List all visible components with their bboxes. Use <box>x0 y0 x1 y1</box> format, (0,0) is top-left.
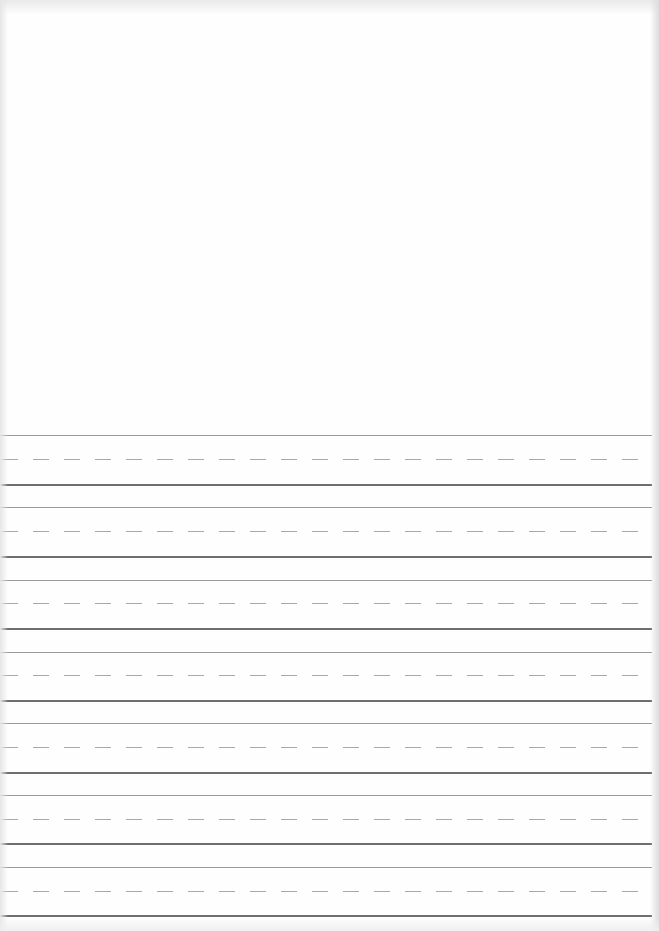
paper-edge-shadow-right <box>650 0 659 931</box>
dashed-midline <box>2 459 652 460</box>
dashed-midline <box>2 819 652 820</box>
dashed-midline <box>2 603 652 604</box>
top-line <box>0 795 652 796</box>
paper-edge-shadow-left <box>0 0 8 931</box>
top-line <box>0 435 652 436</box>
paper-edge-shadow-top <box>0 0 659 14</box>
top-line <box>0 507 652 508</box>
baseline <box>0 772 652 774</box>
practice-paper <box>0 0 659 931</box>
baseline <box>0 556 652 558</box>
baseline <box>0 628 652 630</box>
baseline <box>0 484 652 486</box>
dashed-midline <box>2 531 652 532</box>
dashed-midline <box>2 675 652 676</box>
paper-edge-shadow-bottom <box>0 917 659 931</box>
writing-lines <box>0 0 659 931</box>
baseline <box>0 700 652 702</box>
top-line <box>0 723 652 724</box>
top-line <box>0 580 652 581</box>
baseline <box>0 843 652 845</box>
dashed-midline <box>2 891 652 892</box>
top-line <box>0 867 652 868</box>
top-line <box>0 652 652 653</box>
dashed-midline <box>2 747 652 748</box>
